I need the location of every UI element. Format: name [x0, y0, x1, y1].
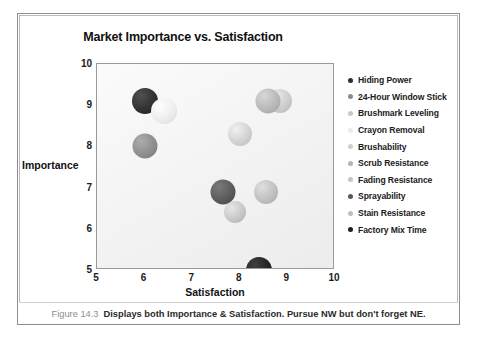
x-tick-7: 7 [188, 272, 194, 283]
data-point-24-hour-window-stick [132, 134, 157, 159]
x-tick-8: 8 [236, 272, 242, 283]
legend-label: Stain Resistance [358, 208, 425, 218]
legend-item-scrub-resistance[interactable]: Scrub Resistance [348, 155, 460, 172]
legend-item-brushmark-leveling[interactable]: Brushmark Leveling [348, 105, 460, 122]
chart-legend: Hiding Power24-Hour Window StickBrushmar… [348, 72, 460, 238]
legend-label: Sprayability [358, 191, 406, 201]
legend-marker-icon [348, 211, 353, 216]
legend-label: Brushmark Leveling [358, 108, 439, 118]
y-tick-9: 9 [86, 99, 92, 110]
data-point-crayon-removal [151, 98, 177, 124]
y-tick-7: 7 [86, 181, 92, 192]
caption-figure-number: Figure 14.3 [52, 309, 99, 319]
legend-label: Fading Resistance [358, 175, 432, 185]
data-point-scrub-resistance [256, 89, 281, 114]
legend-item-fading-resistance[interactable]: Fading Resistance [348, 172, 460, 189]
x-axis-title: Satisfaction [96, 286, 334, 298]
legend-marker-icon [348, 78, 353, 83]
legend-marker-icon [348, 227, 353, 232]
figure-container: Market Importance vs. Satisfaction Impor… [17, 13, 460, 325]
legend-label: 24-Hour Window Stick [358, 92, 447, 102]
data-point-sprayability [211, 179, 236, 204]
legend-item-brushability[interactable]: Brushability [348, 138, 460, 155]
legend-marker-icon [348, 111, 353, 116]
y-tick-6: 6 [86, 222, 92, 233]
legend-marker-icon [348, 144, 353, 149]
data-point-brushability [228, 122, 252, 146]
y-axis-tick-labels: 5678910 [62, 63, 92, 269]
plot-area [96, 63, 334, 269]
x-axis-tick-labels: 5678910 [96, 272, 334, 286]
legend-marker-icon [348, 128, 353, 133]
legend-item-factory-mix-time[interactable]: Factory Mix Time [348, 221, 460, 238]
legend-item-24-hour-window-stick[interactable]: 24-Hour Window Stick [348, 89, 460, 106]
figure-caption: Figure 14.3 Displays both Importance & S… [19, 303, 458, 324]
x-tick-9: 9 [284, 272, 290, 283]
x-tick-5: 5 [93, 272, 99, 283]
caption-body: Displays both Importance & Satisfaction.… [104, 309, 426, 319]
legend-label: Hiding Power [358, 75, 412, 85]
data-point-stain-resistance [254, 180, 278, 204]
legend-item-stain-resistance[interactable]: Stain Resistance [348, 205, 460, 222]
data-point-factory-mix-time [246, 257, 272, 269]
x-tick-6: 6 [141, 272, 147, 283]
legend-marker-icon [348, 194, 353, 199]
data-point-fading-resistance [224, 201, 246, 223]
legend-item-sprayability[interactable]: Sprayability [348, 188, 460, 205]
legend-marker-icon [348, 94, 353, 99]
y-tick-10: 10 [81, 58, 92, 69]
chart-area: Market Importance vs. Satisfaction Impor… [18, 14, 459, 302]
legend-item-hiding-power[interactable]: Hiding Power [348, 72, 460, 89]
x-tick-10: 10 [328, 272, 339, 283]
y-tick-8: 8 [86, 140, 92, 151]
legend-marker-icon [348, 161, 353, 166]
legend-item-crayon-removal[interactable]: Crayon Removal [348, 122, 460, 139]
legend-label: Brushability [358, 142, 406, 152]
chart-title: Market Importance vs. Satisfaction [18, 30, 348, 44]
legend-label: Scrub Resistance [358, 158, 429, 168]
legend-marker-icon [348, 177, 353, 182]
y-tick-5: 5 [86, 264, 92, 275]
legend-label: Factory Mix Time [358, 225, 426, 235]
legend-label: Crayon Removal [358, 125, 424, 135]
